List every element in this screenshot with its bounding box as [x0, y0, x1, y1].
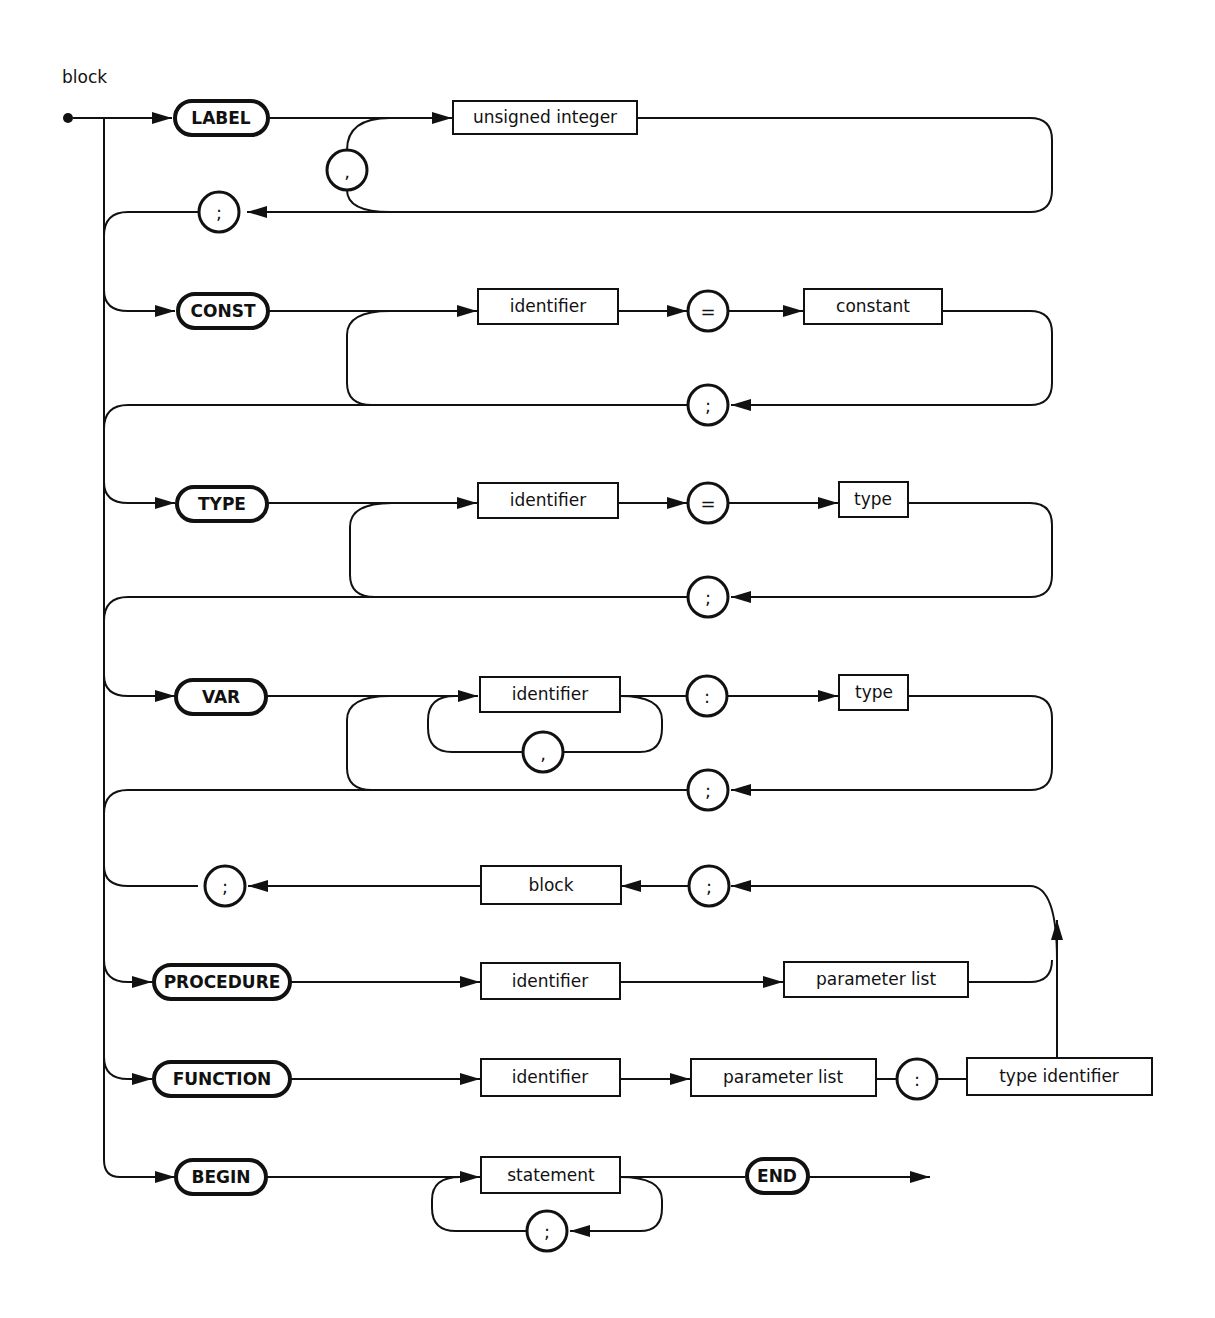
type-identifier-label: identifier — [510, 490, 586, 510]
begin-keyword: BEGIN — [191, 1167, 250, 1187]
subprogram-semicolon-left: ; — [222, 876, 228, 897]
function-identifier-label: identifier — [512, 1067, 588, 1087]
var-type-label: type — [855, 682, 893, 702]
var-keyword: VAR — [202, 687, 240, 707]
type-section: TYPE identifier = type ; — [104, 482, 1052, 696]
function-keyword: FUNCTION — [173, 1069, 272, 1089]
var-section: VAR identifier , : type ; — [104, 675, 1052, 886]
syntax-diagram: block LABEL unsigned integer , ; CONST i… — [0, 0, 1215, 1318]
procedure-identifier-label: identifier — [512, 971, 588, 991]
main-spine — [104, 118, 175, 1177]
type-equals: = — [700, 493, 715, 514]
procedure-parameter-list-label: parameter list — [816, 969, 936, 989]
label-comma: , — [344, 161, 350, 182]
const-equals: = — [700, 301, 715, 322]
constant-label: constant — [836, 296, 910, 316]
label-keyword: LABEL — [191, 108, 251, 128]
subprogram-semicolon-right: ; — [706, 876, 712, 897]
label-section: LABEL unsigned integer , ; — [104, 101, 1052, 311]
type-value-label: type — [854, 489, 892, 509]
function-colon: : — [914, 1069, 920, 1090]
end-keyword: END — [757, 1166, 797, 1186]
statement-semicolon: ; — [544, 1221, 550, 1242]
function-parameter-list-label: parameter list — [723, 1067, 843, 1087]
type-identifier-label: type identifier — [999, 1066, 1119, 1086]
procedure-keyword: PROCEDURE — [164, 972, 281, 992]
statement-label: statement — [507, 1165, 595, 1185]
var-identifier-label: identifier — [512, 684, 588, 704]
var-semicolon: ; — [705, 780, 711, 801]
nested-block-label: block — [528, 875, 573, 895]
type-semicolon: ; — [705, 587, 711, 608]
subprogram-section: ; block ; PROCEDURE identifier parameter… — [104, 866, 1152, 1099]
begin-section: BEGIN statement ; END — [176, 1157, 930, 1251]
var-comma: , — [540, 743, 546, 764]
unsigned-integer-label: unsigned integer — [473, 107, 617, 127]
label-semicolon: ; — [216, 202, 222, 223]
start-dot — [63, 113, 73, 123]
const-keyword: CONST — [191, 301, 256, 321]
var-colon: : — [704, 686, 710, 707]
const-semicolon: ; — [705, 395, 711, 416]
type-keyword: TYPE — [198, 494, 246, 514]
const-identifier-label: identifier — [510, 296, 586, 316]
diagram-title: block — [62, 67, 107, 87]
const-section: CONST identifier = constant ; — [104, 289, 1052, 503]
